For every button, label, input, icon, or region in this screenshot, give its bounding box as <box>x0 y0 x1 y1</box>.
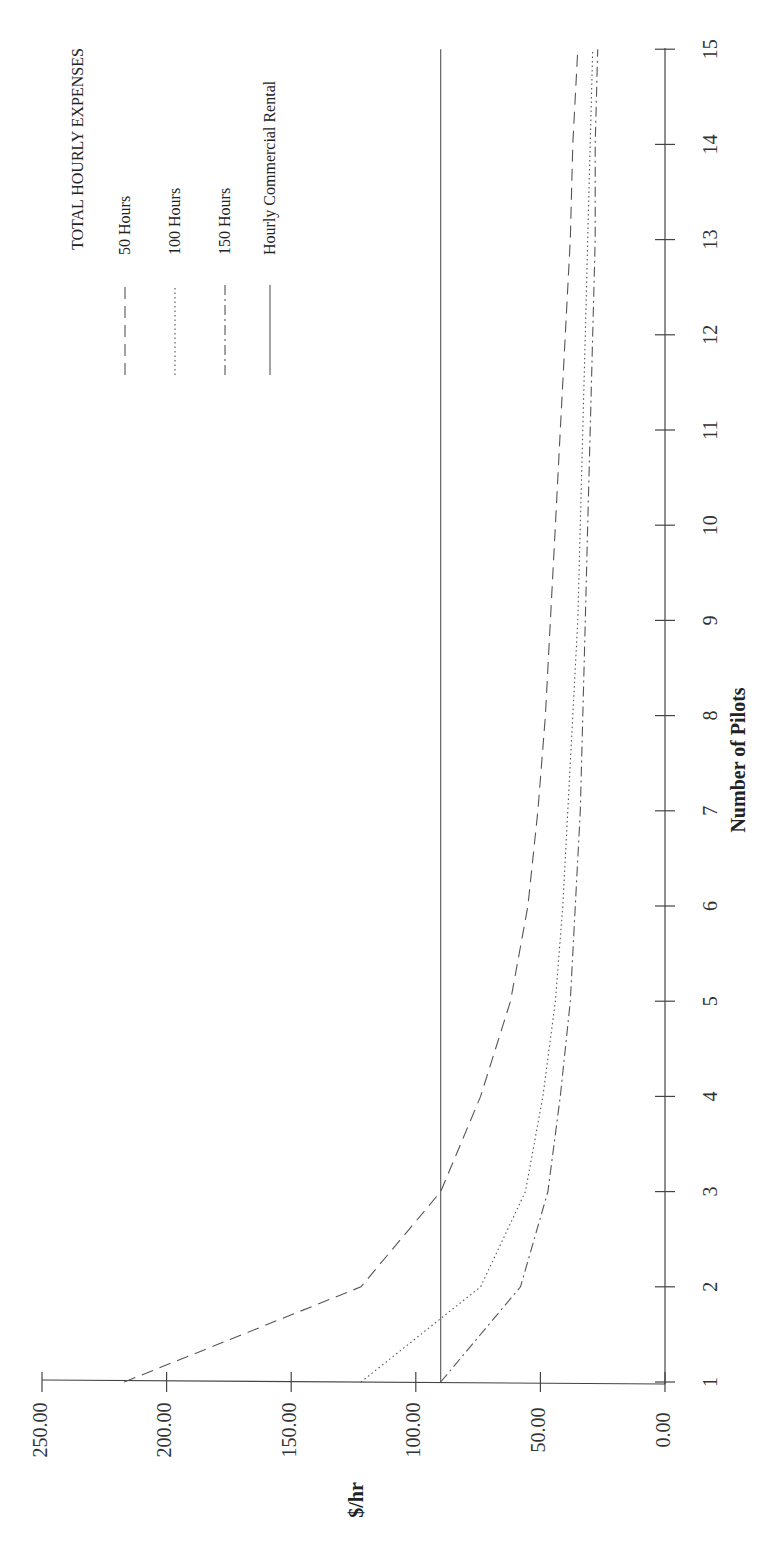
plot-area <box>124 49 598 1382</box>
x-axis-title: Number of Pilots <box>727 687 749 832</box>
y-tick-label: 50.00 <box>527 1408 549 1453</box>
x-tick-label: 4 <box>699 1091 721 1101</box>
legend-title: TOTAL HOURLY EXPENSES <box>69 48 86 250</box>
y-tick-label: 150.00 <box>278 1403 300 1458</box>
legend-label: Hourly Commercial Rental <box>261 80 279 255</box>
x-tick-label: 3 <box>699 1187 721 1197</box>
x-tick-label: 5 <box>699 996 721 1006</box>
legend-label: 100 Hours <box>166 188 183 255</box>
legend: TOTAL HOURLY EXPENSES 50 Hours100 Hours1… <box>69 48 279 375</box>
x-tick-label: 12 <box>699 325 721 345</box>
y-axis: 0.0050.00100.00150.00200.00250.00 <box>29 1372 674 1458</box>
x-tick-label: 15 <box>699 39 721 59</box>
x-tick-label: 6 <box>699 901 721 911</box>
series-line-50-hours <box>124 49 578 1382</box>
y-tick-label: 100.00 <box>402 1403 424 1458</box>
y-tick-label: 200.00 <box>153 1403 175 1458</box>
y-tick-label: 250.00 <box>29 1403 51 1458</box>
y-axis-title: $/hr <box>345 1482 367 1518</box>
x-tick-label: 11 <box>699 420 721 439</box>
series-line-100-hours <box>361 49 593 1382</box>
x-tick-label: 7 <box>699 806 721 816</box>
x-tick-label: 9 <box>699 615 721 625</box>
x-tick-label: 13 <box>699 230 721 250</box>
x-tick-label: 14 <box>699 134 721 154</box>
x-axis: 123456789101112131415 <box>655 39 721 1387</box>
legend-label: 50 Hours <box>116 196 133 255</box>
x-tick-label: 1 <box>699 1377 721 1387</box>
expense-chart: 123456789101112131415 0.0050.00100.00150… <box>0 0 770 1548</box>
x-tick-label: 10 <box>699 515 721 535</box>
x-tick-label: 8 <box>699 711 721 721</box>
series-line-150-hours <box>441 49 598 1382</box>
legend-label: 150 Hours <box>216 188 233 255</box>
x-tick-label: 2 <box>699 1282 721 1292</box>
y-tick-label: 0.00 <box>652 1413 674 1448</box>
